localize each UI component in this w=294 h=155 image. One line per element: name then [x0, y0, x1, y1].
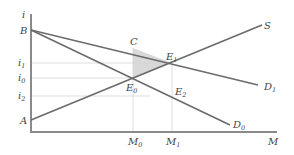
supply-demand-diagram: i M B A C E1 E0 E2 S D1 D0 i1 i0 i2 M0 M…: [0, 0, 294, 155]
y-axis-label: i: [22, 9, 25, 20]
y-tick-i2: i2: [18, 90, 25, 103]
x-tick-m0: M0: [127, 136, 142, 149]
curve-d0-label: D0: [232, 119, 245, 132]
point-e2-label: E2: [174, 86, 186, 99]
demand-curve-d1: [31, 30, 258, 85]
x-tick-m1: M1: [165, 136, 180, 149]
point-c-label: C: [130, 36, 138, 47]
point-b-label: B: [19, 25, 27, 36]
curve-d1-label: D1: [263, 81, 276, 94]
curve-s-label: S: [264, 20, 271, 31]
point-a-label: A: [19, 115, 27, 126]
supply-curve-s: [31, 25, 262, 120]
y-tick-i0: i0: [18, 72, 25, 85]
x-axis-label: M: [267, 136, 279, 147]
point-e0-label: E0: [125, 82, 137, 95]
y-tick-i1: i1: [18, 57, 25, 70]
